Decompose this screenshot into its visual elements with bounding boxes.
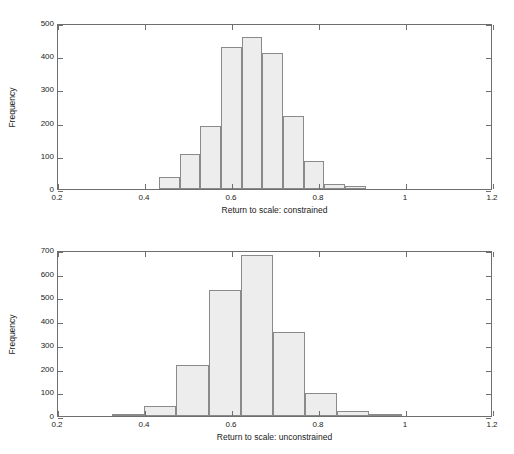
y-tick-label: 100 [41,389,54,397]
y-tick-label: 400 [41,318,54,326]
histogram-bar [241,255,273,416]
y-axis-title: Frequency [6,24,18,190]
x-tick-label: 1.2 [486,420,497,429]
x-tick-label: 0.2 [51,193,62,202]
histogram-bar [176,365,208,416]
plot-frame [57,251,492,417]
x-tick [232,25,233,30]
histogram-bar [369,414,401,416]
y-tick-label: 600 [41,271,54,279]
x-tick [319,252,320,257]
y-tick [58,158,63,159]
y-tick [486,58,491,59]
x-tick [58,25,59,30]
x-tick [319,184,320,189]
y-tick [58,347,63,348]
y-tick [58,394,63,395]
x-tick-label: 0.4 [138,420,149,429]
plot-area [58,25,491,189]
y-tick [58,191,63,192]
histogram-bar [242,37,263,189]
histogram-bar [273,332,305,416]
histogram-bar [305,393,337,416]
x-tick [406,411,407,416]
y-tick-label: 400 [41,53,54,61]
y-tick [486,252,491,253]
x-tick-label: 1 [403,193,407,202]
y-tick [486,25,491,26]
x-tick [319,25,320,30]
y-axis-title: Frequency [6,251,18,417]
x-tick [58,411,59,416]
x-tick [232,411,233,416]
y-tick [486,323,491,324]
x-tick-labels: 0.20.40.60.811.2 [57,193,492,205]
y-tick [486,299,491,300]
x-tick-label: 0.2 [51,420,62,429]
x-tick [58,184,59,189]
y-tick [486,347,491,348]
y-tick [486,276,491,277]
y-tick-label: 100 [41,153,54,161]
y-tick [58,371,63,372]
y-tick-label: 200 [41,120,54,128]
x-tick-label: 1 [403,420,407,429]
y-tick [486,125,491,126]
x-tick [406,252,407,257]
y-tick [58,276,63,277]
histogram-panel-constrained: Frequency 0100200300400500 0.20.40.60.81… [0,0,514,227]
histogram-bar [283,116,304,189]
histogram-bar [337,411,369,416]
x-tick [406,184,407,189]
histogram-bar [159,177,180,189]
y-tick [486,394,491,395]
x-tick [493,25,494,30]
y-tick [486,418,491,419]
x-axis-title: Return to scale: constrained [57,205,492,215]
y-tick [486,191,491,192]
plot-frame [57,24,492,190]
x-tick [493,184,494,189]
x-tick [493,411,494,416]
x-tick-label: 0.8 [312,193,323,202]
histogram-bar [180,154,201,189]
plot-area [58,252,491,416]
y-tick-label: 200 [41,366,54,374]
y-tick-label: 700 [41,247,54,255]
y-tick-label: 300 [41,342,54,350]
x-tick [493,252,494,257]
y-tick-label: 500 [41,294,54,302]
x-tick [145,184,146,189]
x-tick-labels: 0.20.40.60.811.2 [57,420,492,432]
histogram-bar [324,184,345,189]
histogram-bar [304,161,325,189]
x-tick-label: 0.8 [312,420,323,429]
x-tick [232,184,233,189]
x-tick-label: 0.6 [225,420,236,429]
y-tick [58,91,63,92]
histogram-bar [200,126,221,189]
y-tick [58,418,63,419]
y-tick [486,371,491,372]
histogram-panel-unconstrained: Frequency 0100200300400500600700 0.20.40… [0,227,514,454]
x-tick [58,252,59,257]
x-tick [145,411,146,416]
y-tick [58,323,63,324]
histogram-bar [221,47,242,189]
y-tick-label: 300 [41,86,54,94]
histogram-bar [144,406,176,416]
y-tick-labels: 0100200300400500600700 [27,251,54,417]
y-tick [486,158,491,159]
histogram-bar [345,186,366,189]
x-tick [232,252,233,257]
x-tick-label: 1.2 [486,193,497,202]
y-tick-label: 500 [41,20,54,28]
x-tick [406,25,407,30]
y-tick [58,299,63,300]
x-tick-label: 0.6 [225,193,236,202]
y-tick [58,125,63,126]
x-tick-label: 0.4 [138,193,149,202]
y-tick-labels: 0100200300400500 [27,24,54,190]
histogram-bar [209,290,241,416]
figure-two-histograms: Frequency 0100200300400500 0.20.40.60.81… [0,0,514,454]
